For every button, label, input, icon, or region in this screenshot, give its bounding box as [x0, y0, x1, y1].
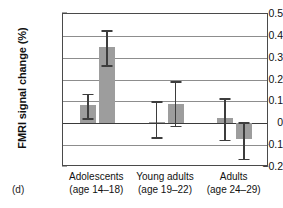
error-bar	[87, 94, 89, 119]
error-bar-cap	[101, 65, 112, 67]
gridline	[63, 36, 267, 37]
panel-letter: (d)	[12, 184, 24, 195]
error-bar	[243, 122, 245, 159]
category-age-range: (age 24–29)	[174, 183, 283, 196]
error-bar-cap	[151, 101, 162, 103]
error-bar	[106, 30, 108, 65]
gridline	[63, 145, 267, 146]
error-bar-cap	[82, 118, 93, 120]
error-bar-cap	[170, 126, 181, 128]
error-bar-cap	[220, 98, 231, 100]
y-axis-title: FMRI signal change (%)	[16, 4, 28, 172]
x-axis-category-label: Adults(age 24–29)	[174, 170, 283, 196]
category-name: Adults	[220, 171, 248, 182]
error-bar-cap	[151, 137, 162, 139]
error-bar-cap	[239, 159, 250, 161]
error-bar	[156, 101, 158, 137]
error-bar-cap	[220, 140, 231, 142]
error-bar-cap	[170, 81, 181, 83]
error-bar-cap	[101, 30, 112, 32]
gridline	[63, 101, 267, 102]
error-bar	[175, 81, 177, 126]
error-bar-cap	[82, 94, 93, 96]
gridline	[63, 58, 267, 59]
error-bar	[224, 98, 226, 140]
figure-panel: FMRI signal change (%) (d) 0.50.40.30.20…	[0, 0, 283, 208]
error-bar-cap	[239, 122, 250, 124]
plot-area	[62, 13, 268, 166]
gridline	[63, 80, 267, 81]
